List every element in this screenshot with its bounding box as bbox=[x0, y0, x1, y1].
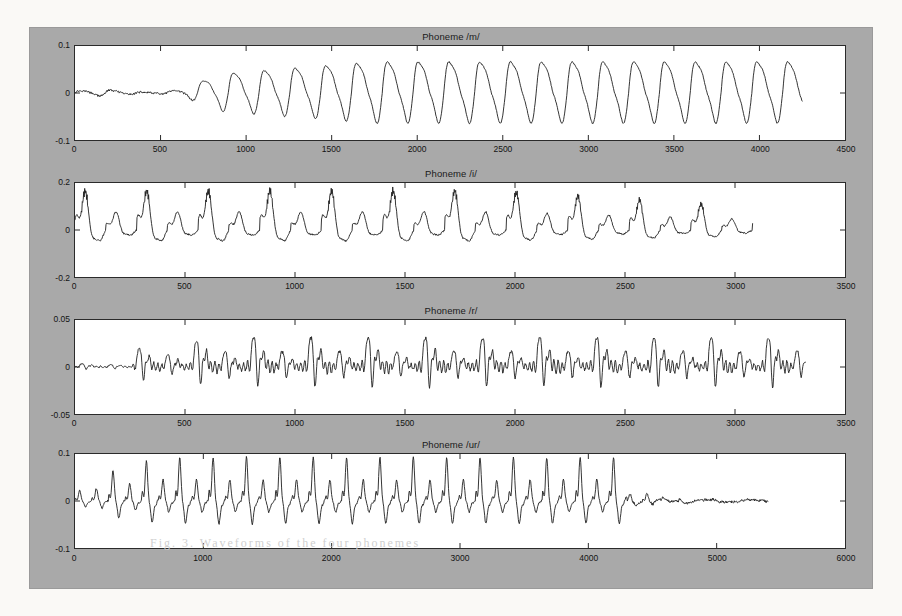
ytick-m-0: 0.1 bbox=[38, 40, 70, 50]
xtick-i-3: 1500 bbox=[395, 281, 414, 291]
xtick-r-1: 500 bbox=[177, 418, 191, 428]
xtick-i-1: 500 bbox=[177, 281, 191, 291]
xtick-ur-4: 4000 bbox=[579, 553, 598, 563]
xtick-m-5: 2500 bbox=[493, 144, 512, 154]
tick-marks bbox=[75, 46, 845, 140]
ytick-m-2: -0.1 bbox=[38, 136, 70, 146]
panel-phoneme-r: Phoneme /r/ 0.05 0 -0.05 0 500 1000 1500… bbox=[30, 302, 872, 442]
xtick-r-2: 1000 bbox=[285, 418, 304, 428]
xtick-m-3: 1500 bbox=[322, 144, 341, 154]
xtick-m-1: 500 bbox=[153, 144, 167, 154]
xtick-i-4: 2000 bbox=[506, 281, 525, 291]
ytick-ur-0: 0.1 bbox=[38, 448, 70, 458]
waveform-trace bbox=[75, 187, 753, 242]
panel-title-i: Phoneme /i/ bbox=[30, 168, 872, 179]
page-background: Phoneme /m/ 0.1 0 -0.1 0 500 1000 1500 2… bbox=[0, 0, 902, 616]
waveform-trace bbox=[75, 61, 802, 124]
xtick-m-4: 2000 bbox=[408, 144, 427, 154]
xtick-m-0: 0 bbox=[72, 144, 77, 154]
xtick-r-4: 2000 bbox=[506, 418, 525, 428]
ytick-r-2: -0.05 bbox=[32, 410, 70, 420]
waveform-trace bbox=[75, 456, 768, 524]
ytick-ur-2: -0.1 bbox=[38, 544, 70, 554]
xtick-m-6: 3000 bbox=[579, 144, 598, 154]
xtick-r-0: 0 bbox=[72, 418, 77, 428]
xtick-i-0: 0 bbox=[72, 281, 77, 291]
ytick-ur-1: 0 bbox=[38, 496, 70, 506]
xtick-m-9: 4500 bbox=[837, 144, 856, 154]
axes-phoneme-m bbox=[74, 45, 846, 141]
ytick-r-0: 0.05 bbox=[32, 314, 70, 324]
xtick-m-2: 1000 bbox=[236, 144, 255, 154]
panel-title-ur: Phoneme /ur/ bbox=[30, 439, 872, 450]
xtick-ur-6: 6000 bbox=[837, 553, 856, 563]
ytick-m-1: 0 bbox=[38, 88, 70, 98]
xtick-r-3: 1500 bbox=[395, 418, 414, 428]
xtick-ur-3: 3000 bbox=[451, 553, 470, 563]
panel-phoneme-ur: Phoneme /ur/ Fig. 3. Waveforms of the fo… bbox=[30, 436, 872, 581]
waveform-svg-2 bbox=[75, 320, 845, 414]
panel-title-m: Phoneme /m/ bbox=[30, 31, 872, 42]
axes-phoneme-ur bbox=[74, 453, 846, 549]
xtick-r-6: 3000 bbox=[726, 418, 745, 428]
xtick-i-5: 2500 bbox=[616, 281, 635, 291]
xtick-i-2: 1000 bbox=[285, 281, 304, 291]
matlab-figure: Phoneme /m/ 0.1 0 -0.1 0 500 1000 1500 2… bbox=[30, 28, 872, 588]
waveform-svg-1 bbox=[75, 183, 845, 277]
ytick-r-1: 0 bbox=[32, 362, 70, 372]
xtick-ur-5: 5000 bbox=[708, 553, 727, 563]
panel-phoneme-i: Phoneme /i/ 0.2 0 -0.2 0 500 1000 1500 2… bbox=[30, 165, 872, 305]
waveform-svg-3 bbox=[75, 454, 845, 548]
ytick-i-0: 0.2 bbox=[38, 177, 70, 187]
ytick-i-2: -0.2 bbox=[38, 273, 70, 283]
axes-phoneme-i bbox=[74, 182, 846, 278]
xtick-r-5: 2500 bbox=[616, 418, 635, 428]
axes-phoneme-r bbox=[74, 319, 846, 415]
waveform-svg-0 bbox=[75, 46, 845, 140]
xtick-ur-2: 2000 bbox=[322, 553, 341, 563]
panel-title-r: Phoneme /r/ bbox=[30, 305, 872, 316]
ytick-i-1: 0 bbox=[38, 225, 70, 235]
xtick-r-7: 3500 bbox=[837, 418, 856, 428]
panel-phoneme-m: Phoneme /m/ 0.1 0 -0.1 0 500 1000 1500 2… bbox=[30, 28, 872, 168]
xtick-i-7: 3500 bbox=[837, 281, 856, 291]
xtick-i-6: 3000 bbox=[726, 281, 745, 291]
xtick-m-7: 3500 bbox=[665, 144, 684, 154]
xtick-m-8: 4000 bbox=[751, 144, 770, 154]
waveform-trace bbox=[75, 337, 805, 389]
xtick-ur-0: 0 bbox=[72, 553, 77, 563]
xtick-ur-1: 1000 bbox=[193, 553, 212, 563]
